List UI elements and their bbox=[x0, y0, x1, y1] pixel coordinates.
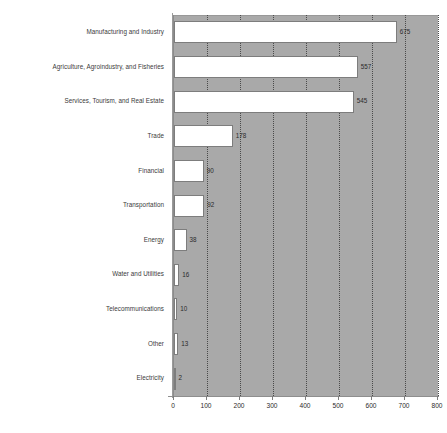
x-tick-label-400: 400 bbox=[292, 403, 318, 410]
bar bbox=[174, 160, 204, 182]
x-tick-label-200: 200 bbox=[226, 403, 252, 410]
x-tick-label-500: 500 bbox=[325, 403, 351, 410]
bar bbox=[174, 56, 358, 78]
category-label: Telecommunications bbox=[0, 306, 164, 312]
bar-chart: Manufacturing and IndustryAgriculture, A… bbox=[0, 0, 447, 433]
gridline-600 bbox=[372, 15, 373, 396]
y-axis-line bbox=[172, 13, 173, 398]
gridline-700 bbox=[405, 15, 406, 396]
x-tick-label-700: 700 bbox=[391, 403, 417, 410]
x-tick-100 bbox=[206, 396, 207, 400]
bar bbox=[174, 91, 354, 113]
category-axis-labels: Manufacturing and IndustryAgriculture, A… bbox=[0, 15, 168, 396]
category-label: Trade bbox=[0, 133, 164, 139]
x-tick-700 bbox=[404, 396, 405, 400]
x-tick-0 bbox=[173, 396, 174, 400]
category-label: Services, Tourism, and Real Estate bbox=[0, 98, 164, 104]
gridline-800 bbox=[438, 15, 439, 396]
x-tick-300 bbox=[272, 396, 273, 400]
category-label: Energy bbox=[0, 237, 164, 243]
x-tick-500 bbox=[338, 396, 339, 400]
category-label: Financial bbox=[0, 168, 164, 174]
x-tick-label-300: 300 bbox=[259, 403, 285, 410]
bar-value-label: 92 bbox=[207, 202, 214, 208]
category-label: Electricity bbox=[0, 375, 164, 381]
category-label: Agriculture, Agroindustry, and Fisheries bbox=[0, 64, 164, 70]
x-tick-label-100: 100 bbox=[193, 403, 219, 410]
x-tick-600 bbox=[371, 396, 372, 400]
bar bbox=[174, 368, 176, 390]
x-tick-800 bbox=[437, 396, 438, 400]
bar-value-label: 675 bbox=[400, 29, 411, 35]
x-tick-label-800: 800 bbox=[424, 403, 447, 410]
bar-value-label: 13 bbox=[181, 341, 188, 347]
x-tick-label-0: 0 bbox=[160, 403, 186, 410]
bar-value-label: 2 bbox=[179, 375, 183, 381]
bar bbox=[174, 195, 204, 217]
bar-value-label: 38 bbox=[190, 237, 197, 243]
category-label: Manufacturing and Industry bbox=[0, 29, 164, 35]
category-label: Transportation bbox=[0, 202, 164, 208]
bar-value-label: 16 bbox=[182, 272, 189, 278]
bar bbox=[174, 264, 179, 286]
x-tick-label-600: 600 bbox=[358, 403, 384, 410]
x-tick-400 bbox=[305, 396, 306, 400]
bar-value-label: 90 bbox=[207, 168, 214, 174]
bar bbox=[174, 229, 187, 251]
bar bbox=[174, 21, 397, 43]
bar-value-label: 545 bbox=[357, 98, 368, 104]
x-tick-200 bbox=[239, 396, 240, 400]
bar bbox=[174, 125, 233, 147]
x-axis-line bbox=[168, 396, 439, 397]
bar-value-label: 557 bbox=[361, 64, 372, 70]
category-label: Other bbox=[0, 341, 164, 347]
bar-value-label: 178 bbox=[236, 133, 247, 139]
bar bbox=[174, 298, 177, 320]
plot-area: 6755575451789092381610132 bbox=[173, 15, 438, 396]
bar-value-label: 10 bbox=[180, 306, 187, 312]
bar bbox=[174, 333, 178, 355]
category-label: Water and Utilities bbox=[0, 271, 164, 277]
